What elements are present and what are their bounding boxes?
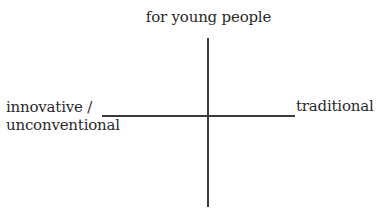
axis-label-top: for young people xyxy=(0,8,385,26)
vertical-axis-line xyxy=(207,38,209,207)
axis-label-left: innovative / unconventional xyxy=(6,98,120,134)
axis-label-right: traditional xyxy=(296,97,374,115)
horizontal-axis-line xyxy=(102,115,295,117)
